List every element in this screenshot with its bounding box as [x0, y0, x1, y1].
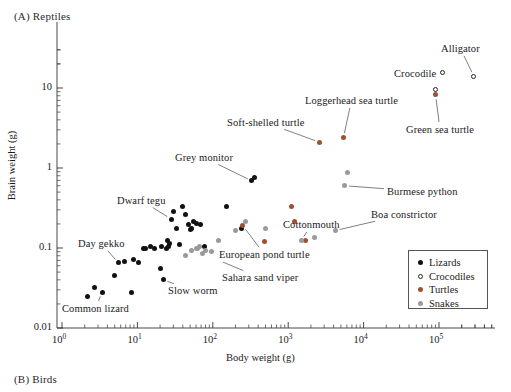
data-point-snakes [342, 183, 347, 188]
data-point-snakes [233, 228, 238, 233]
data-point-lizards [112, 273, 117, 278]
annotation-label: Cottonmouth [283, 219, 340, 230]
legend-label: Crocodiles [429, 271, 475, 282]
data-point-lizards [116, 260, 121, 265]
legend-label: Turtles [429, 284, 458, 295]
legend-label: Snakes [429, 298, 459, 309]
legend-marker-crocodiles-icon [415, 274, 425, 279]
annotation-label: Day gekko [78, 238, 125, 249]
annotation-label: Sahara sand viper [222, 272, 298, 283]
data-point-snakes [263, 226, 268, 231]
annotation-label: Boa constrictor [371, 209, 437, 220]
panel-b-label: (B) Birds [14, 373, 57, 385]
annotation-label: Alligator [441, 43, 480, 54]
data-point-snakes [209, 249, 214, 254]
data-point-snakes [197, 244, 202, 249]
data-point-snakes [299, 238, 304, 243]
data-point-lizards [174, 226, 179, 231]
legend-item-snakes: Snakes [415, 297, 459, 310]
data-point-turtles [262, 239, 267, 244]
x-tick-label: 101 [127, 334, 141, 345]
data-point-lizards [167, 241, 172, 246]
data-point-snakes [216, 238, 221, 243]
x-tick-label: 104 [354, 334, 368, 345]
reptile-brain-body-scatter-figure: (A) Reptiles (B) Birds 0.010.11101001011… [0, 0, 511, 392]
data-point-crocodiles [440, 70, 445, 75]
data-point-lizards [198, 222, 203, 227]
annotation-label: Soft-shelled turtle [227, 117, 304, 128]
data-point-lizards [100, 290, 105, 295]
data-point-snakes [312, 235, 317, 240]
data-point-turtles [341, 135, 346, 140]
annotation-label: Crocodile [394, 68, 436, 79]
data-point-lizards [152, 246, 157, 251]
y-tick-label: 0.01 [8, 321, 52, 332]
x-tick-label: 102 [203, 334, 217, 345]
data-point-crocodiles [471, 74, 476, 79]
legend-item-lizards: Lizards [415, 256, 461, 269]
data-point-lizards [171, 209, 176, 214]
data-point-lizards [161, 277, 166, 282]
panel-a-label: (A) Reptiles [14, 10, 70, 22]
legend: LizardsCrocodilesTurtlesSnakes [408, 250, 488, 309]
legend-marker-snakes-icon [415, 301, 425, 306]
data-point-lizards [169, 217, 174, 222]
x-axis-title: Body weight (g) [226, 352, 295, 363]
data-point-snakes [243, 219, 248, 224]
data-point-lizards [129, 290, 134, 295]
data-point-lizards [85, 294, 90, 299]
x-tick-label: 103 [278, 334, 292, 345]
data-point-lizards [158, 266, 163, 271]
legend-marker-lizards-icon [415, 260, 425, 265]
annotation-label: Green sea turtle [406, 124, 474, 135]
data-point-turtles [289, 204, 294, 209]
data-point-lizards [189, 226, 194, 231]
y-tick-label: 0.1 [8, 241, 52, 252]
annotation-label: Common lizard [62, 303, 129, 314]
legend-item-turtles: Turtles [415, 283, 458, 296]
annotation-label: Dwarf tegu [117, 195, 166, 206]
annotation-label: Loggerhead sea turtle [305, 95, 398, 106]
data-point-snakes [183, 253, 188, 258]
data-point-lizards [122, 259, 127, 264]
annotation-label: European pond turtle [219, 249, 310, 260]
data-point-lizards [252, 175, 257, 180]
y-tick-label: 10 [8, 81, 52, 92]
annotation-label: Slow worm [168, 285, 218, 296]
x-tick-label: 100 [52, 334, 66, 345]
data-point-lizards [177, 242, 182, 247]
legend-label: Lizards [429, 257, 461, 268]
data-point-turtles [433, 92, 438, 97]
legend-item-crocodiles: Crocodiles [415, 270, 475, 283]
annotation-label: Burmese python [387, 186, 458, 197]
data-point-turtles [317, 140, 322, 145]
data-point-turtles [240, 223, 245, 228]
data-point-snakes [203, 248, 208, 253]
data-point-lizards [92, 285, 97, 290]
data-point-snakes [345, 170, 350, 175]
x-tick-label: 105 [429, 334, 443, 345]
data-point-lizards [224, 204, 229, 209]
y-axis-title: Brain weight (g) [6, 121, 17, 211]
data-point-lizards [180, 204, 185, 209]
data-point-lizards [183, 212, 188, 217]
legend-marker-turtles-icon [415, 287, 425, 292]
data-point-lizards [136, 260, 141, 265]
annotation-label: Grey monitor [175, 152, 233, 163]
